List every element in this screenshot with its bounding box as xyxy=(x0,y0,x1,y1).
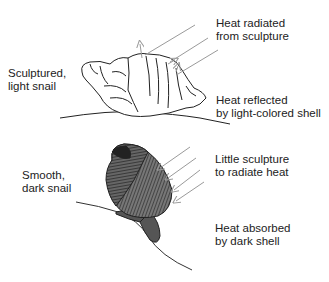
label-line: Smooth, xyxy=(22,169,71,182)
label-line: Heat radiated xyxy=(216,17,289,30)
label-line: Heat reflected xyxy=(216,94,321,107)
label-line: from sculpture xyxy=(216,30,289,43)
callout-heat-absorbed: Heat absorbed by dark shell xyxy=(215,222,290,248)
callout-heat-radiated: Heat radiated from sculpture xyxy=(216,17,289,43)
snail-label-smooth: Smooth, dark snail xyxy=(22,169,71,195)
label-line: by light-colored shell xyxy=(216,107,321,120)
label-line: light snail xyxy=(8,80,66,93)
sculptured-light-snail-shell xyxy=(82,54,206,117)
snail-label-sculptured: Sculptured, light snail xyxy=(8,67,66,93)
label-line: Little sculpture xyxy=(215,153,289,166)
callout-little-sculpture: Little sculpture to radiate heat xyxy=(215,153,289,179)
label-line: Heat absorbed xyxy=(215,222,290,235)
smooth-dark-snail-shell xyxy=(106,144,172,242)
label-line: by dark shell xyxy=(215,235,290,248)
label-line: Sculptured, xyxy=(8,67,66,80)
label-line: to radiate heat xyxy=(215,166,289,179)
label-line: dark snail xyxy=(22,182,71,195)
callout-heat-reflected: Heat reflected by light-colored shell xyxy=(216,94,321,120)
